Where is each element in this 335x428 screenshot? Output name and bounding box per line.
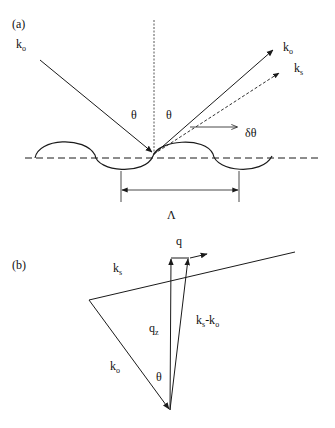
difference-vector bbox=[170, 259, 188, 410]
qz-vector bbox=[170, 259, 171, 410]
difference-vector-label: ks-ko bbox=[196, 313, 219, 329]
reflected-angle-label: θ bbox=[166, 108, 172, 122]
period-label: Λ bbox=[167, 208, 176, 222]
incident-angle-label: θ bbox=[131, 108, 137, 122]
ks-vector-label: ks bbox=[113, 261, 122, 277]
incident-ray bbox=[40, 60, 152, 152]
ko-vector-label: ko bbox=[110, 359, 120, 375]
panel-b: (b) ks q ko qz ks-ko θ bbox=[12, 234, 295, 410]
scattering-angle-label: θ bbox=[156, 370, 162, 384]
scattered-wave-label: ks bbox=[294, 61, 303, 77]
scattering-diagram: (a) ko θ θ ko ks δθ Λ (b) ks bbox=[0, 0, 335, 428]
rough-surface-profile bbox=[35, 142, 272, 170]
panel-b-label: (b) bbox=[12, 258, 26, 272]
panel-a-label: (a) bbox=[12, 17, 25, 31]
qz-vector-label: qz bbox=[149, 321, 159, 337]
parallel-component-arrow bbox=[190, 254, 207, 258]
panel-a: (a) ko θ θ ko ks δθ Λ bbox=[12, 17, 322, 222]
reflected-wave-label: ko bbox=[283, 40, 293, 56]
ko-vector bbox=[89, 300, 169, 409]
delta-theta-label: δθ bbox=[245, 126, 257, 140]
incident-wave-label: ko bbox=[16, 37, 26, 53]
parallel-component-label: q bbox=[176, 234, 182, 248]
scattered-ray bbox=[154, 73, 279, 154]
